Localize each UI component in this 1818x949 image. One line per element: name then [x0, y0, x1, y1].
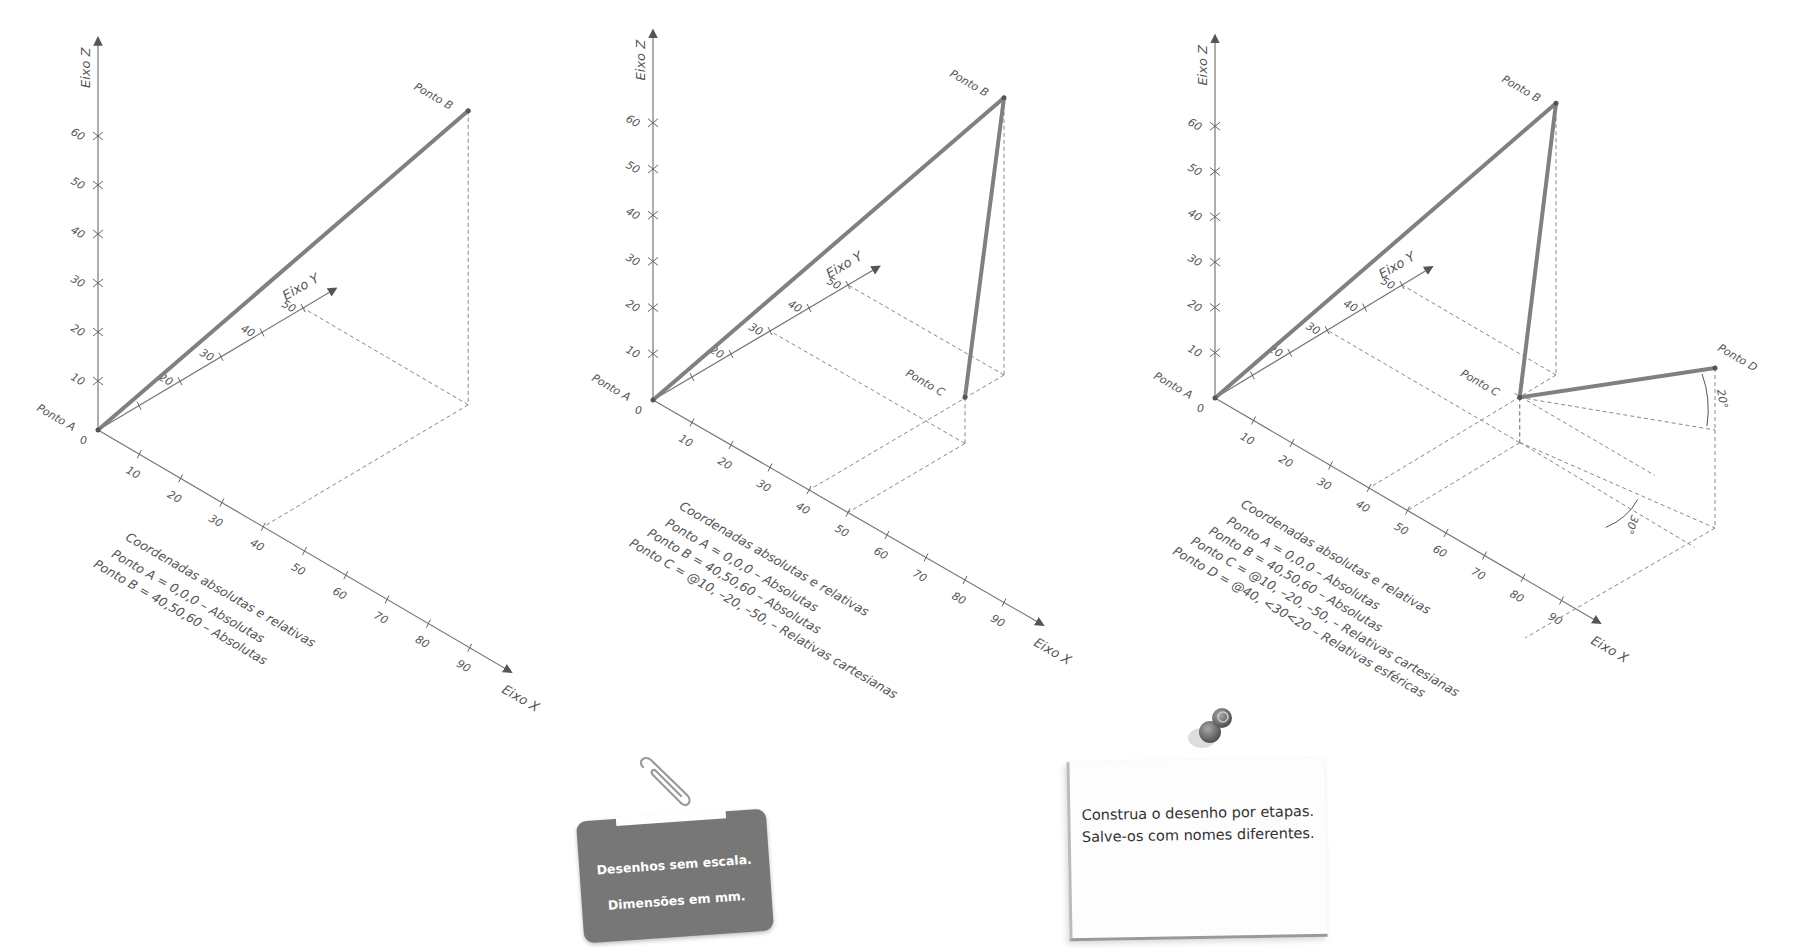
y-axis-label: Eixo Y [280, 270, 323, 303]
x-tick-label: 60 [1431, 542, 1450, 560]
x-tick-label: 10 [1238, 430, 1257, 448]
x-tick [768, 464, 772, 472]
x-tick-label: 80 [950, 589, 969, 607]
point-marker [1554, 101, 1559, 106]
tag-line-1: Desenhos sem escala. [579, 850, 770, 878]
x-tick [924, 554, 928, 562]
origin-label: 0 [635, 404, 642, 417]
x-tick-label: 50 [1392, 520, 1411, 538]
point-marker [1213, 396, 1218, 401]
y-tick [178, 377, 182, 385]
x-tick [344, 571, 348, 579]
z-tick-label: 50 [1186, 161, 1205, 179]
x-tick-label: 30 [206, 512, 225, 530]
y-tick [1288, 349, 1292, 357]
x-tick-label: 90 [989, 612, 1008, 630]
figure-3: 102030405060708090203040501020304050600E… [1152, 36, 1760, 701]
x-axis-label: Eixo X [500, 682, 544, 716]
segment-ab [1215, 103, 1556, 398]
elevation-angle-arc [1702, 374, 1708, 426]
segment-cd [1520, 368, 1715, 397]
projection-line [809, 375, 1004, 490]
z-tick-label: 30 [624, 251, 643, 269]
x-axis-label: Eixo X [1589, 633, 1633, 667]
tag-line-2: Dimensões em mm. [581, 886, 772, 914]
x-tick-label: 40 [794, 499, 813, 517]
z-axis-label: Eixo Z [633, 39, 648, 81]
point-marker [1713, 366, 1718, 371]
pushpin-icon [1186, 702, 1240, 754]
origin-label: 0 [80, 434, 87, 447]
z-tick-label: 60 [1186, 116, 1205, 134]
point-marker [1517, 395, 1522, 400]
x-tick-label: 40 [1354, 497, 1373, 515]
x-tick [1002, 599, 1006, 607]
x-tick [220, 499, 224, 507]
x-tick-label: 50 [289, 560, 308, 578]
y-tick [729, 350, 733, 358]
x-tick-label: 10 [124, 464, 143, 482]
x-tick [1406, 507, 1410, 515]
z-tick-label: 40 [69, 223, 88, 241]
note-text: Construa o desenho por etapas. Salve-os … [1080, 800, 1316, 848]
y-axis [98, 288, 336, 430]
point-marker [466, 108, 471, 113]
z-axis-label: Eixo Z [1195, 44, 1210, 86]
x-tick-label: 20 [1277, 452, 1296, 470]
x-tick [385, 595, 389, 603]
figure-2: 102030405060708090203040501020304050600E… [590, 30, 1076, 701]
segment-bc [965, 98, 1004, 398]
y-axis-label: Eixo Y [823, 248, 866, 281]
x-tick [690, 419, 694, 427]
x-tick-label: 70 [1469, 565, 1488, 583]
z-tick-label: 40 [1186, 206, 1205, 224]
segment-ab [653, 98, 1004, 400]
x-tick-label: 60 [872, 544, 891, 562]
y-axis [653, 267, 879, 400]
diagram-canvas: 102030405060708090203040501020304050600E… [0, 0, 1818, 949]
instruction-note: Construa o desenho por etapas. Salve-os … [1066, 758, 1327, 941]
point-label: Ponto A [35, 401, 78, 433]
point-label: Ponto D [1716, 341, 1760, 374]
point-marker [651, 398, 656, 403]
x-tick [137, 450, 141, 458]
point-label: Ponto B [1500, 73, 1543, 105]
elevation-angle-label: 20° [1714, 388, 1730, 409]
projection-line [848, 285, 1004, 375]
x-tick-label: 10 [677, 432, 696, 450]
x-tick [426, 620, 430, 628]
figure-1: 102030405060708090203040501020304050600E… [35, 38, 544, 715]
x-tick-label: 30 [755, 477, 774, 495]
x-tick [1444, 529, 1448, 537]
z-tick-label: 30 [69, 272, 88, 290]
x-tick [1290, 439, 1294, 447]
y-tick [846, 281, 850, 289]
x-tick [1560, 597, 1564, 605]
x-tick-label: 80 [1508, 587, 1527, 605]
point-label: Ponto C [1458, 367, 1502, 400]
x-axis-label: Eixo X [1032, 635, 1076, 669]
projection-line [1520, 397, 1715, 430]
x-tick [963, 576, 967, 584]
y-axis [1215, 267, 1432, 398]
y-tick [260, 328, 264, 336]
origin-label: 0 [1197, 402, 1204, 415]
y-tick [1325, 326, 1329, 334]
x-tick-label: 90 [454, 657, 473, 675]
point-marker [963, 395, 968, 400]
point-label: Ponto C [904, 367, 948, 400]
x-tick-label: 60 [330, 585, 349, 603]
x-tick [1483, 552, 1487, 560]
segment-ab [98, 111, 468, 430]
x-tick-label: 70 [911, 567, 930, 585]
y-tick [690, 373, 694, 381]
projection-line [1520, 442, 1695, 547]
x-tick [1252, 417, 1256, 425]
z-tick-label: 20 [624, 297, 643, 315]
z-tick-label: 50 [69, 174, 88, 192]
point-label: Ponto A [590, 371, 633, 403]
y-tick [1250, 371, 1254, 379]
z-tick-label: 10 [624, 343, 643, 361]
point-label: Ponto B [412, 80, 455, 112]
x-tick [729, 441, 733, 449]
